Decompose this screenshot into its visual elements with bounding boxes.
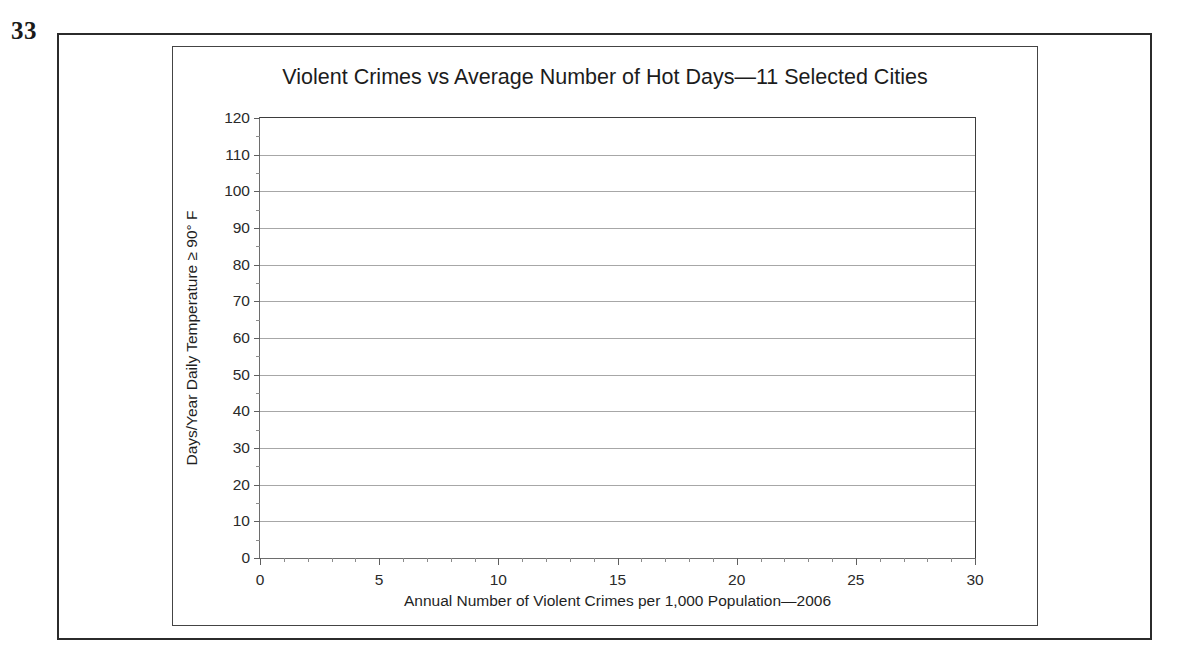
y-axis-tick (254, 118, 260, 119)
x-axis-minor-tick (904, 558, 905, 562)
x-axis-tick-label: 20 (728, 571, 745, 589)
y-axis-tick (254, 411, 260, 412)
x-axis-tick (618, 558, 619, 565)
x-axis-tick (379, 558, 380, 565)
y-axis-tick (254, 338, 260, 339)
y-axis-tick-label: 10 (233, 512, 250, 530)
y-axis-tick-label: 120 (224, 109, 250, 127)
y-axis-tick-label: 90 (233, 219, 250, 237)
y-axis-tick (254, 191, 260, 192)
x-axis-tick-label: 5 (375, 571, 384, 589)
x-axis-tick (856, 558, 857, 565)
gridline-horizontal (260, 448, 975, 449)
chart-container: Violent Crimes vs Average Number of Hot … (172, 46, 1038, 626)
x-axis-minor-tick (927, 558, 928, 562)
y-axis-tick-label: 70 (233, 292, 250, 310)
gridline-horizontal (260, 521, 975, 522)
x-axis-minor-tick (641, 558, 642, 562)
x-axis-minor-tick (808, 558, 809, 562)
x-axis-minor-tick (546, 558, 547, 562)
y-axis-title-text: Days/Year Daily Temperature ≥ 90° F (183, 210, 201, 465)
x-axis-minor-tick (332, 558, 333, 562)
x-axis-tick-label: 25 (847, 571, 864, 589)
y-axis-minor-tick (256, 136, 260, 137)
x-axis-minor-tick (880, 558, 881, 562)
y-axis-minor-tick (256, 320, 260, 321)
x-axis-minor-tick (761, 558, 762, 562)
y-axis-tick (254, 448, 260, 449)
gridline-horizontal (260, 301, 975, 302)
gridline-horizontal (260, 411, 975, 412)
x-axis-minor-tick (594, 558, 595, 562)
x-axis-tick-label: 10 (490, 571, 507, 589)
y-axis-tick (254, 485, 260, 486)
x-axis-tick-label: 30 (966, 571, 983, 589)
x-axis-minor-tick (475, 558, 476, 562)
y-axis-tick-label: 100 (224, 182, 250, 200)
x-axis-minor-tick (832, 558, 833, 562)
x-axis-minor-tick (689, 558, 690, 562)
y-axis-minor-tick (256, 393, 260, 394)
y-axis-tick-label: 50 (233, 366, 250, 384)
x-axis-minor-tick (451, 558, 452, 562)
x-axis-minor-tick (355, 558, 356, 562)
x-axis-tick (260, 558, 261, 565)
y-axis-tick (254, 375, 260, 376)
y-axis-minor-tick (256, 540, 260, 541)
gridline-horizontal (260, 338, 975, 339)
y-axis-title: Days/Year Daily Temperature ≥ 90° F (181, 117, 203, 559)
x-axis-minor-tick (403, 558, 404, 562)
y-axis-minor-tick (256, 246, 260, 247)
x-axis-minor-tick (427, 558, 428, 562)
y-axis-minor-tick (256, 210, 260, 211)
y-axis-tick-label: 110 (225, 146, 250, 164)
y-axis-tick (254, 301, 260, 302)
y-axis-tick (254, 265, 260, 266)
gridline-horizontal (260, 155, 975, 156)
y-axis-tick (254, 228, 260, 229)
gridline-horizontal (260, 191, 975, 192)
x-axis-minor-tick (784, 558, 785, 562)
y-axis-minor-tick (256, 356, 260, 357)
gridline-horizontal (260, 485, 975, 486)
figure-number: 33 (11, 17, 37, 45)
gridline-horizontal (260, 265, 975, 266)
x-axis-tick (498, 558, 499, 565)
chart-title: Violent Crimes vs Average Number of Hot … (173, 65, 1037, 90)
x-axis-minor-tick (570, 558, 571, 562)
x-axis-minor-tick (713, 558, 714, 562)
x-axis-tick (975, 558, 976, 565)
gridline-horizontal (260, 375, 975, 376)
x-axis-title: Annual Number of Violent Crimes per 1,00… (259, 592, 976, 610)
y-axis-tick (254, 521, 260, 522)
y-axis-minor-tick (256, 466, 260, 467)
x-axis-minor-tick (665, 558, 666, 562)
x-axis-tick-label: 0 (256, 571, 265, 589)
y-axis-minor-tick (256, 173, 260, 174)
x-axis-minor-tick (284, 558, 285, 562)
y-axis-tick-label: 40 (233, 402, 250, 420)
x-axis-minor-tick (951, 558, 952, 562)
gridline-horizontal (260, 228, 975, 229)
y-axis-tick (254, 155, 260, 156)
y-axis-tick-label: 60 (233, 329, 250, 347)
y-axis-tick-label: 30 (233, 439, 250, 457)
y-axis-minor-tick (256, 430, 260, 431)
y-axis-minor-tick (256, 503, 260, 504)
x-axis-minor-tick (308, 558, 309, 562)
y-axis-tick-label: 0 (241, 549, 250, 567)
x-axis-minor-tick (522, 558, 523, 562)
y-axis-tick-label: 80 (233, 256, 250, 274)
x-axis-tick (737, 558, 738, 565)
plot-area: 0102030405060708090100110120 05101520253… (259, 117, 976, 559)
y-axis-tick-label: 20 (233, 476, 250, 494)
y-axis-minor-tick (256, 283, 260, 284)
x-axis-tick-label: 15 (609, 571, 626, 589)
